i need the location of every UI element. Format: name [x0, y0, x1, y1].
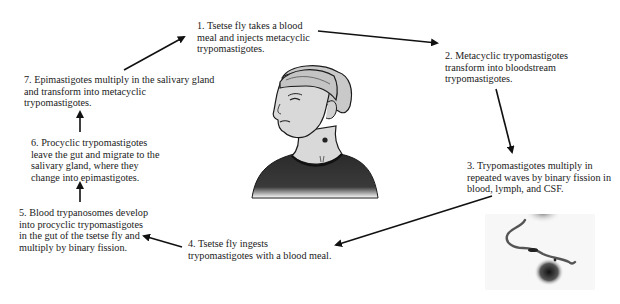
fly-bite-mark	[322, 137, 327, 142]
step-2-text: 2. Metacyclic trypomastigotes transform …	[445, 50, 568, 85]
step-5-text: 5. Blood trypanosomes develop into procy…	[19, 207, 148, 253]
step-6-text: 6. Procyclic trypomastigotes leave the g…	[31, 137, 159, 183]
step-4-text: 4. Tsetse fly ingests trypomastigotes wi…	[188, 238, 331, 261]
arrow-1-to-2	[318, 31, 437, 43]
arrow-2-to-3	[496, 89, 512, 152]
step-7-text: 7. Epimastigotes multiply in the salivar…	[24, 74, 214, 109]
arrow-7-to-1	[124, 37, 184, 70]
step-3-text: 3. Trypomastigotes multiply in repeated …	[467, 160, 611, 195]
trypanosome-micrograph	[485, 214, 595, 290]
arrow-4-to-5	[144, 236, 182, 247]
step-1-text: 1. Tsetse fly takes a blood meal and inj…	[197, 20, 310, 55]
human-host-figure	[250, 58, 380, 204]
